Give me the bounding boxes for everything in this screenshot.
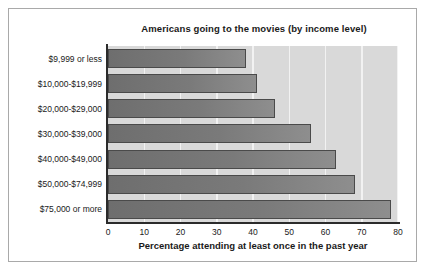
y-axis-label: $30,000-$39,000 xyxy=(10,129,102,139)
bar-row xyxy=(108,147,398,172)
bar xyxy=(108,74,257,93)
x-axis-tick: 10 xyxy=(129,227,159,237)
bar xyxy=(108,200,391,219)
bar-row xyxy=(108,121,398,146)
bar-row xyxy=(108,71,398,96)
x-axis-tick: 50 xyxy=(274,227,304,237)
x-axis-tick: 0 xyxy=(93,227,123,237)
y-axis-label: $50,000-$74,999 xyxy=(10,179,102,189)
x-axis-title: Percentage attending at least once in th… xyxy=(100,240,406,251)
bar xyxy=(108,99,275,118)
bar-row xyxy=(108,96,398,121)
y-axis-label: $20,000-$29,000 xyxy=(10,104,102,114)
y-axis-category-labels: $9,999 or less$10,000-$19,999$20,000-$29… xyxy=(10,46,102,222)
x-axis-tick-labels: 01020304050607080 xyxy=(0,227,425,239)
chart-title: Americans going to the movies (by income… xyxy=(108,23,400,34)
bar xyxy=(108,124,311,143)
y-axis-label: $10,000-$19,999 xyxy=(10,79,102,89)
bar-series xyxy=(108,46,398,222)
plot-area xyxy=(108,46,398,222)
y-axis-line xyxy=(106,44,108,224)
y-axis-label: $9,999 or less xyxy=(10,54,102,64)
chart-figure: Americans going to the movies (by income… xyxy=(0,0,425,275)
x-axis-tick: 30 xyxy=(202,227,232,237)
x-axis-tick: 70 xyxy=(347,227,377,237)
x-axis-tick: 20 xyxy=(166,227,196,237)
bar xyxy=(108,49,246,68)
bar-row xyxy=(108,172,398,197)
y-axis-label: $75,000 or more xyxy=(10,204,102,214)
bar xyxy=(108,175,355,194)
bar-row xyxy=(108,46,398,71)
bar-row xyxy=(108,197,398,222)
x-axis-tick: 80 xyxy=(383,227,413,237)
x-axis-tick: 60 xyxy=(311,227,341,237)
bar xyxy=(108,150,336,169)
x-axis-line xyxy=(106,222,400,224)
y-axis-label: $40,000-$49,000 xyxy=(10,154,102,164)
x-axis-tick: 40 xyxy=(238,227,268,237)
